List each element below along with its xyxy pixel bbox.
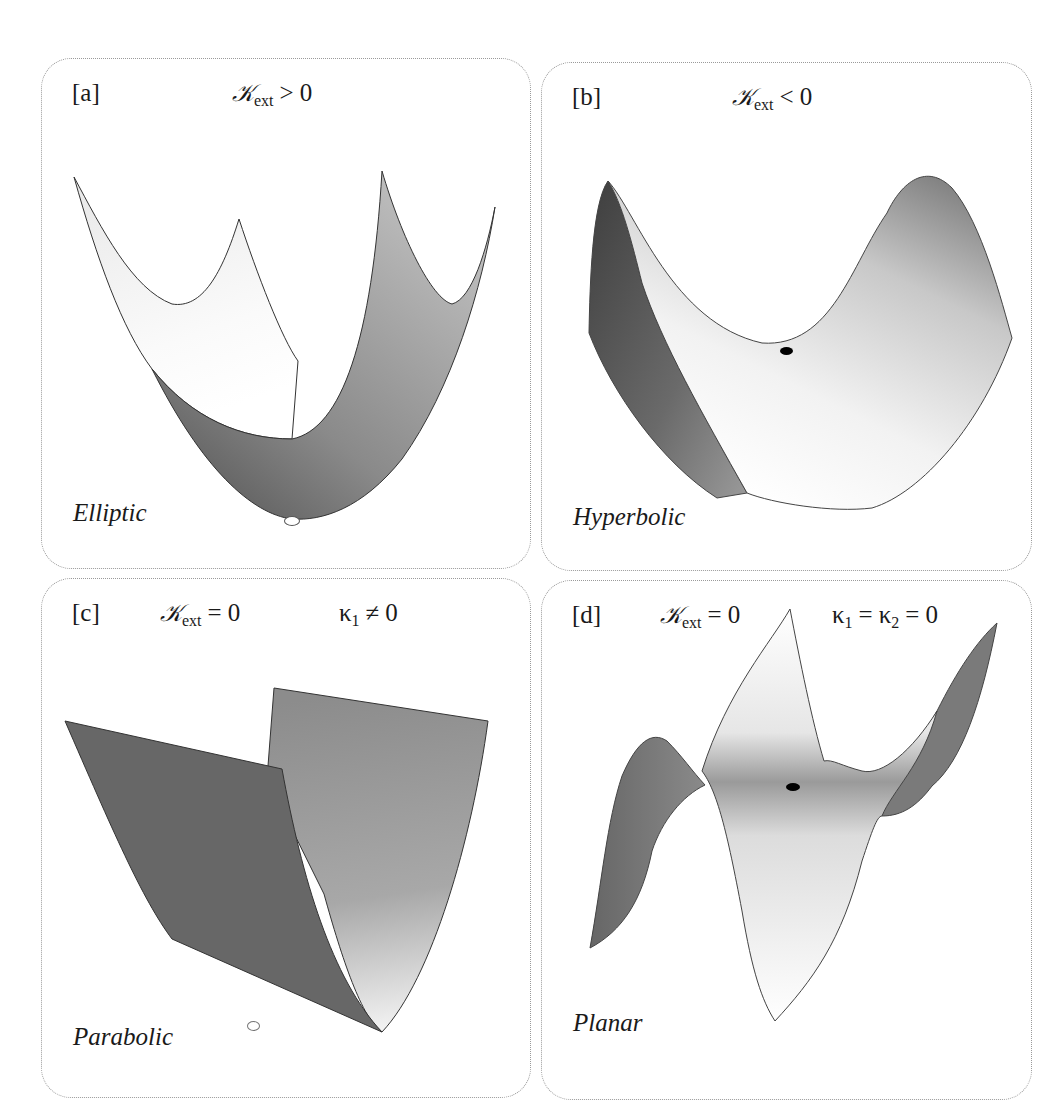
- panel-planar: [d] 𝒦ext=0 κ1=κ2=0 Planar: [541, 580, 1032, 1100]
- parabolic-cylinder-surface: [42, 579, 531, 1098]
- panel-elliptic: [a] 𝒦ext>0 Elliptic: [41, 58, 531, 569]
- panel-parabolic: [c] 𝒦ext=0 κ1≠0 Parabolic: [41, 578, 531, 1098]
- surface-type-label: Planar: [573, 1009, 642, 1037]
- surface-type-label: Elliptic: [73, 499, 147, 527]
- surface-point-marker: [786, 783, 800, 791]
- surface-type-label: Parabolic: [73, 1023, 173, 1051]
- surface-point-marker: [284, 516, 300, 526]
- hyperbolic-paraboloid-surface: [542, 63, 1032, 571]
- elliptic-paraboloid-surface: [42, 59, 531, 569]
- surface-point-marker: [247, 1021, 260, 1031]
- saddle-point-marker: [780, 347, 793, 355]
- surface-type-label: Hyperbolic: [573, 503, 685, 531]
- panel-hyperbolic: [b] 𝒦ext<0 Hyperbolic: [541, 62, 1032, 571]
